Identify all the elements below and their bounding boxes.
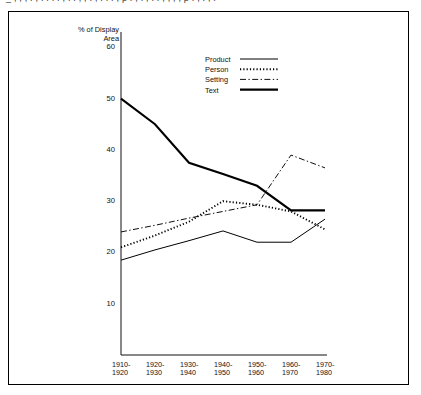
series-line-text [121, 99, 325, 211]
y-axis-tick-label: 30 [89, 196, 115, 205]
chart-frame: 102030405060% of Display Area1910- 19201… [8, 11, 409, 385]
x-axis-tick-label: 1950- 1960 [248, 361, 278, 378]
chart-page: _ , , , . , . . . . , . . , , . , . . . … [0, 0, 421, 395]
x-axis-tick-label: 1910- 1920 [112, 361, 142, 378]
y-axis-tick-label: 60 [89, 42, 115, 51]
legend-label-product: Product [205, 55, 230, 64]
y-axis-tick-label: 50 [89, 94, 115, 103]
scan-cutoff-header: _ , , , . , . . . . , . . , , . , . . . … [0, 0, 421, 9]
x-axis-tick-label: 1920- 1930 [146, 361, 176, 378]
legend-label-text: Text [205, 86, 219, 95]
chart-series-group [121, 99, 325, 261]
legend-label-person: Person [205, 65, 228, 74]
x-axis-tick-label: 1930- 1940 [180, 361, 210, 378]
y-axis-tick-label: 20 [89, 247, 115, 256]
x-axis-tick-label: 1960- 1970 [282, 361, 312, 378]
y-axis-title: % of Display Area [69, 26, 119, 43]
series-line-product [121, 219, 325, 260]
x-axis-tick-label: 1940- 1950 [214, 361, 244, 378]
y-axis-tick-label: 10 [89, 299, 115, 308]
legend-label-setting: Setting [205, 75, 228, 84]
x-axis-tick-label: 1970- 1980 [316, 361, 346, 378]
y-axis-tick-label: 40 [89, 145, 115, 154]
legend-swatches [240, 59, 278, 90]
scan-cutoff-text: _ , , , . , . . . . , . . , , . , . . . … [6, 0, 216, 3]
series-line-setting [121, 155, 325, 232]
